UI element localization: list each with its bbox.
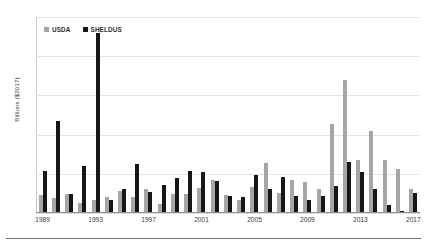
bar-group bbox=[36, 17, 49, 213]
bar-group bbox=[221, 17, 234, 213]
bar-sheldus bbox=[135, 164, 139, 213]
x-tick-label: 2005 bbox=[247, 216, 262, 223]
bar-group bbox=[301, 17, 314, 213]
bar-sheldus bbox=[268, 189, 272, 213]
bar-group bbox=[102, 17, 115, 213]
bar-sheldus bbox=[175, 178, 179, 213]
bar-usda bbox=[396, 169, 400, 213]
legend-label-usda: USDA bbox=[52, 26, 71, 33]
bar-group bbox=[340, 17, 353, 213]
bar-sheldus bbox=[373, 189, 377, 213]
x-axis-line bbox=[36, 212, 420, 213]
x-tick-label: 2017 bbox=[406, 216, 421, 223]
bar-sheldus bbox=[56, 121, 60, 213]
bar-group bbox=[407, 17, 420, 213]
bar-group bbox=[49, 17, 62, 213]
bar-sheldus bbox=[215, 181, 219, 213]
bar-groups bbox=[36, 17, 420, 213]
legend-label-sheldus: SHELDUS bbox=[91, 26, 122, 33]
bar-sheldus bbox=[334, 186, 338, 213]
legend-item-usda: USDA bbox=[44, 26, 71, 33]
bar-sheldus bbox=[162, 185, 166, 213]
bar-group bbox=[367, 17, 380, 213]
bar-sheldus bbox=[347, 162, 351, 213]
bar-sheldus bbox=[254, 175, 258, 213]
bar-group bbox=[182, 17, 195, 213]
figure-bottom-rule bbox=[6, 238, 421, 239]
bar-sheldus bbox=[321, 196, 325, 213]
bar-sheldus bbox=[148, 192, 152, 213]
bar-group bbox=[274, 17, 287, 213]
bar-group bbox=[89, 17, 102, 213]
bar-group bbox=[235, 17, 248, 213]
bar-group bbox=[115, 17, 128, 213]
bar-group bbox=[248, 17, 261, 213]
bar-group bbox=[354, 17, 367, 213]
bar-group bbox=[314, 17, 327, 213]
bar-group bbox=[76, 17, 89, 213]
gridline bbox=[36, 213, 420, 214]
legend: USDA SHELDUS bbox=[44, 26, 122, 33]
bar-sheldus bbox=[294, 196, 298, 213]
bar-group bbox=[155, 17, 168, 213]
bar-group bbox=[327, 17, 340, 213]
bar-sheldus bbox=[43, 171, 47, 213]
legend-swatch-usda-icon bbox=[44, 27, 49, 32]
x-tick-label: 1997 bbox=[141, 216, 156, 223]
crop-loss-bar-chart: Billions ($2017) 0510152025 198919931997… bbox=[0, 0, 427, 246]
bar-sheldus bbox=[201, 172, 205, 213]
bar-sheldus bbox=[122, 189, 126, 213]
legend-item-sheldus: SHELDUS bbox=[83, 26, 122, 33]
bar-group bbox=[208, 17, 221, 213]
bar-group bbox=[287, 17, 300, 213]
bar-group bbox=[129, 17, 142, 213]
y-axis-title: Billions ($2017) bbox=[13, 40, 20, 160]
x-tick-label: 2001 bbox=[194, 216, 209, 223]
bar-group bbox=[62, 17, 75, 213]
x-tick-label: 2013 bbox=[353, 216, 368, 223]
bar-sheldus bbox=[281, 177, 285, 213]
bar-sheldus bbox=[69, 194, 73, 213]
x-axis-ticks: 19891993199720012005200920132017 bbox=[36, 216, 420, 230]
bar-group bbox=[380, 17, 393, 213]
bar-sheldus bbox=[109, 200, 113, 213]
bar-sheldus bbox=[360, 172, 364, 213]
x-tick-label: 1993 bbox=[88, 216, 103, 223]
bar-sheldus bbox=[413, 193, 417, 213]
x-tick-label: 1989 bbox=[35, 216, 50, 223]
bar-sheldus bbox=[241, 197, 245, 213]
bar-sheldus bbox=[96, 33, 100, 213]
bar-group bbox=[168, 17, 181, 213]
bar-sheldus bbox=[188, 171, 192, 213]
plot-area: 0510152025 bbox=[36, 17, 420, 213]
bar-sheldus bbox=[82, 166, 86, 213]
bar-group bbox=[261, 17, 274, 213]
legend-swatch-sheldus-icon bbox=[83, 27, 88, 32]
bar-group bbox=[393, 17, 406, 213]
bar-group bbox=[195, 17, 208, 213]
x-tick-label: 2009 bbox=[300, 216, 315, 223]
bar-group bbox=[142, 17, 155, 213]
bar-sheldus bbox=[228, 196, 232, 213]
